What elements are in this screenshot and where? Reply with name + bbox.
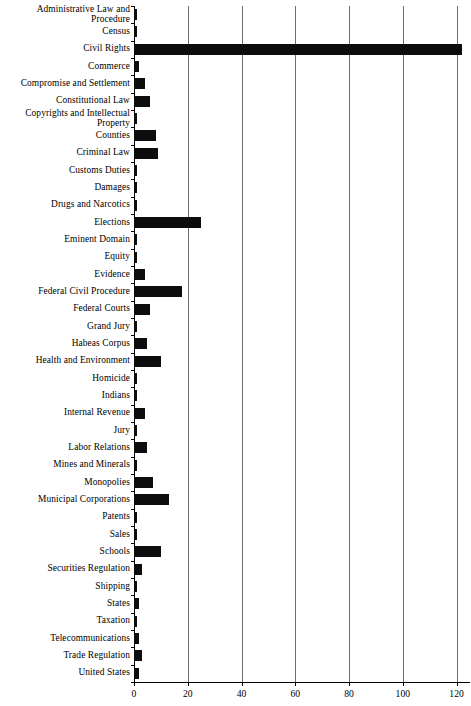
- category-label: Health and Environment: [0, 356, 130, 366]
- bar: [134, 425, 137, 436]
- bar-row: [134, 301, 470, 318]
- category-label: Habeas Corpus: [0, 339, 130, 349]
- y-tick: [131, 457, 135, 458]
- y-tick: [131, 197, 135, 198]
- y-tick: [131, 6, 135, 7]
- x-tick-label: 40: [237, 688, 247, 699]
- x-tick-label: 100: [396, 688, 410, 699]
- bar-row: [134, 23, 470, 40]
- y-tick: [131, 23, 135, 24]
- bar-row: [134, 613, 470, 630]
- bar: [134, 78, 145, 89]
- bar: [134, 130, 156, 141]
- bar-row: [134, 387, 470, 404]
- bar-row: [134, 491, 470, 508]
- y-tick: [131, 162, 135, 163]
- category-label: Securities Regulation: [0, 564, 130, 574]
- bar: [134, 304, 150, 315]
- y-tick: [131, 491, 135, 492]
- bar: [134, 546, 161, 557]
- bar-row: [134, 197, 470, 214]
- bar: [134, 200, 137, 211]
- category-label: States: [0, 599, 130, 609]
- category-label: Federal Courts: [0, 304, 130, 314]
- y-tick: [131, 127, 135, 128]
- bar: [134, 217, 201, 228]
- bar-row: [134, 457, 470, 474]
- y-tick: [131, 249, 135, 250]
- bar: [134, 650, 142, 661]
- y-tick: [131, 318, 135, 319]
- bar: [134, 286, 182, 297]
- x-tick-label: 20: [183, 688, 193, 699]
- category-label: Internal Revenue: [0, 408, 130, 418]
- category-label: Civil Rights: [0, 44, 130, 54]
- category-label: Administrative Law and Procedure: [0, 5, 130, 24]
- category-label: Evidence: [0, 270, 130, 280]
- bar: [134, 61, 139, 72]
- bar: [134, 633, 139, 644]
- y-tick: [131, 405, 135, 406]
- plot-area: [134, 6, 470, 682]
- bar: [134, 113, 137, 124]
- category-label: Commerce: [0, 62, 130, 72]
- y-tick: [131, 387, 135, 388]
- y-tick: [131, 422, 135, 423]
- y-tick: [131, 578, 135, 579]
- bar-row: [134, 335, 470, 352]
- bar-row: [134, 127, 470, 144]
- category-label: Telecommunications: [0, 634, 130, 644]
- bar: [134, 477, 153, 488]
- bar-row: [134, 214, 470, 231]
- category-label: Federal Civil Procedure: [0, 287, 130, 297]
- bar-row: [134, 58, 470, 75]
- bar: [134, 165, 137, 176]
- x-tick-label: 80: [344, 688, 354, 699]
- y-tick: [131, 335, 135, 336]
- bar-chart: Administrative Law and ProcedureCensusCi…: [0, 0, 471, 706]
- bar: [134, 96, 150, 107]
- y-tick: [131, 613, 135, 614]
- category-label: Labor Relations: [0, 443, 130, 453]
- y-tick: [131, 93, 135, 94]
- category-label: Drugs and Narcotics: [0, 200, 130, 210]
- bar-row: [134, 110, 470, 127]
- bar-row: [134, 474, 470, 491]
- bar: [134, 9, 137, 20]
- category-label: Constitutional Law: [0, 96, 130, 106]
- category-label: Shipping: [0, 582, 130, 592]
- category-label: Elections: [0, 218, 130, 228]
- bar-row: [134, 370, 470, 387]
- x-tick-label: 60: [290, 688, 300, 699]
- bar-row: [134, 75, 470, 92]
- bar-row: [134, 231, 470, 248]
- y-tick: [131, 370, 135, 371]
- y-tick: [131, 179, 135, 180]
- bar-row: [134, 439, 470, 456]
- category-label: Customs Duties: [0, 166, 130, 176]
- y-tick: [131, 474, 135, 475]
- x-tick-0: [134, 682, 135, 686]
- bar-row: [134, 283, 470, 300]
- category-label: Trade Regulation: [0, 651, 130, 661]
- bar: [134, 460, 137, 471]
- bar: [134, 234, 137, 245]
- category-label: Criminal Law: [0, 148, 130, 158]
- category-label: Mines and Minerals: [0, 460, 130, 470]
- bar: [134, 616, 137, 627]
- bar-row: [134, 595, 470, 612]
- bar: [134, 373, 137, 384]
- y-tick: [131, 283, 135, 284]
- y-tick: [131, 110, 135, 111]
- category-label: Census: [0, 27, 130, 37]
- category-label: United States: [0, 668, 130, 678]
- bar-row: [134, 578, 470, 595]
- y-tick: [131, 301, 135, 302]
- x-tick-label: 120: [449, 688, 463, 699]
- category-label: Taxation: [0, 616, 130, 626]
- bar-row: [134, 266, 470, 283]
- category-label: Monopolies: [0, 478, 130, 488]
- category-label: Schools: [0, 547, 130, 557]
- bar-row: [134, 318, 470, 335]
- x-tick-20: [188, 682, 189, 686]
